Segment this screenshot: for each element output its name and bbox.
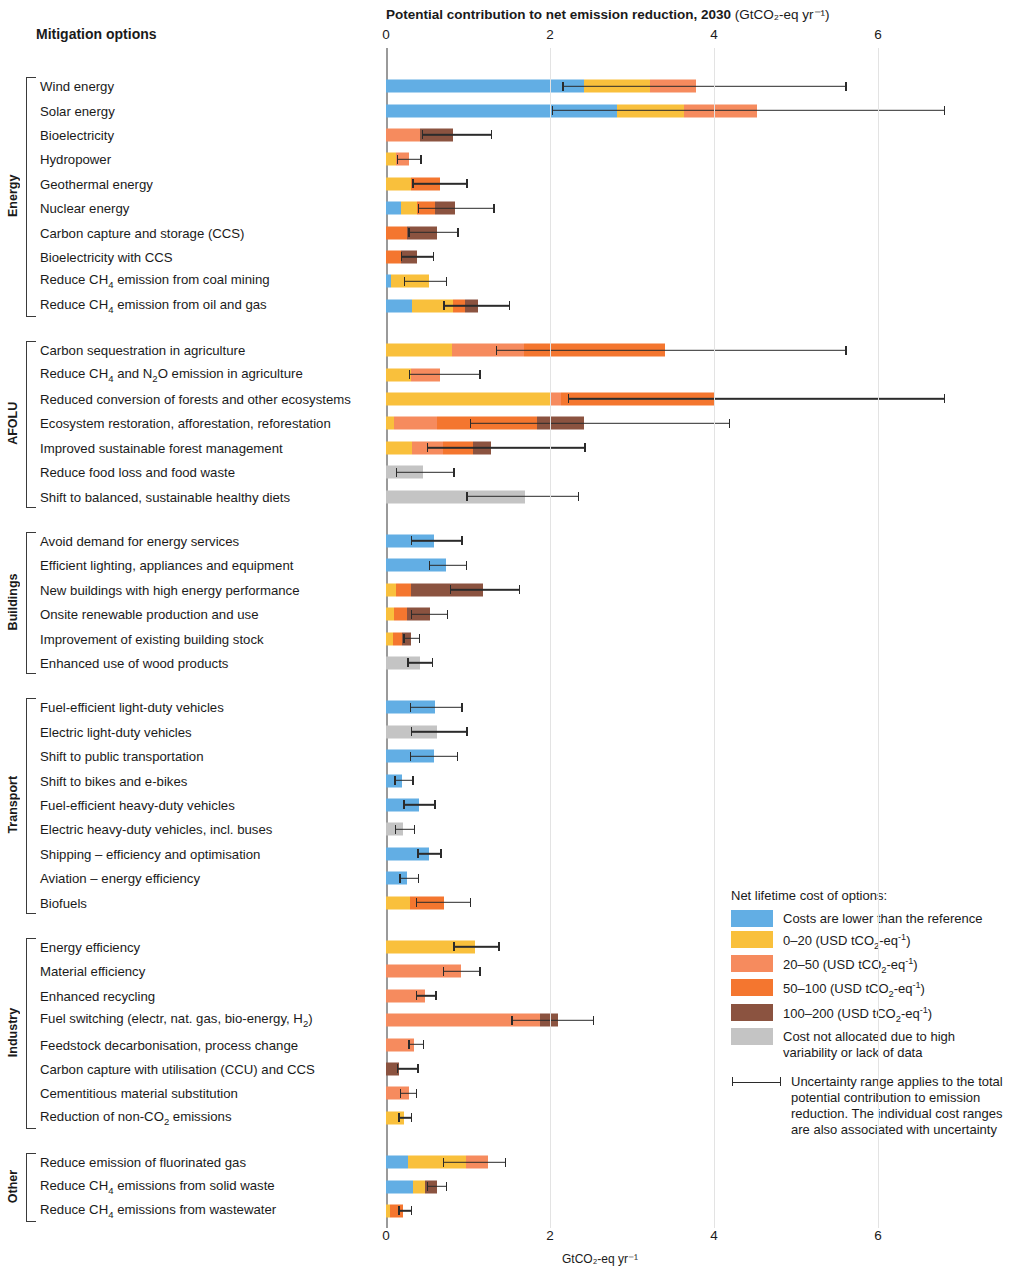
bar-group [386, 872, 1012, 885]
bar-segment [386, 344, 452, 357]
uncertainty-whisker [411, 731, 467, 732]
uncertainty-whisker [470, 423, 729, 424]
legend-items: Costs are lower than the reference0–20 (… [731, 910, 1012, 1060]
uncertainty-cap-high [519, 585, 520, 594]
uncertainty-whisker [418, 207, 493, 208]
uncertainty-cap-high [446, 277, 447, 286]
chart-title-main: Potential contribution to net emission r… [386, 7, 731, 22]
uncertainty-cap-low [397, 155, 398, 164]
bar-segment [386, 368, 411, 381]
row-label: Avoid demand for energy services [40, 533, 239, 548]
uncertainty-whisker [409, 374, 480, 375]
legend-item[interactable]: 20–50 (USD tCO2-eq-1) [731, 955, 1012, 976]
uncertainty-cap-high [491, 130, 492, 139]
row-label: Shift to public transportation [40, 749, 203, 764]
row-label: Electric light-duty vehicles [40, 724, 192, 739]
uncertainty-cap-low [427, 1182, 428, 1191]
chart-row: Electric heavy-duty vehicles, incl. buse… [0, 817, 1012, 841]
legend-swatch [731, 1004, 773, 1021]
uncertainty-whisker [453, 946, 498, 947]
row-label: Fuel switching (electr, nat. gas, bio-en… [40, 1011, 313, 1029]
chart-row: Fuel-efficient light-duty vehicles [0, 695, 1012, 719]
group-label: Industry [6, 938, 20, 1127]
chart-row: Shift to balanced, sustainable healthy d… [0, 484, 1012, 508]
bar-segment [386, 226, 407, 239]
chart-title: Potential contribution to net emission r… [386, 6, 830, 22]
group-label: Other [6, 1153, 20, 1220]
bar-segment [386, 153, 396, 166]
uncertainty-whisker [408, 232, 457, 233]
legend-item[interactable]: 100–200 (USD tCO2-eq-1) [731, 1004, 1012, 1025]
chart-row: Improvement of existing building stock [0, 626, 1012, 650]
bar-segment [386, 583, 396, 596]
row-label: Ecosystem restoration, afforestation, re… [40, 416, 331, 431]
uncertainty-cap-high [944, 106, 945, 115]
uncertainty-cap-low [411, 727, 412, 736]
x-tick-label: 4 [710, 27, 718, 42]
uncertainty-cap-high [944, 394, 945, 403]
legend-item[interactable]: 50–100 (USD tCO2-eq-1) [731, 979, 1012, 1000]
uncertainty-cap-high [435, 991, 436, 1000]
uncertainty-whisker [552, 110, 944, 111]
legend-label: 100–200 (USD tCO2-eq-1) [783, 1004, 932, 1025]
chart-row: Reduce CH4 emission from coal mining [0, 269, 1012, 293]
x-axis-bottom: 0246 [0, 1228, 1012, 1248]
row-label: Improved sustainable forest management [40, 440, 283, 455]
uncertainty-cap-high [411, 1206, 412, 1215]
legend-item[interactable]: Costs are lower than the reference [731, 910, 1012, 927]
row-label: Bioelectricity with CCS [40, 249, 173, 264]
chart-row: Wind energy [0, 74, 1012, 98]
legend-label: 50–100 (USD tCO2-eq-1) [783, 979, 925, 1000]
uncertainty-whisker [411, 613, 447, 614]
chart-row: Improved sustainable forest management [0, 436, 1012, 460]
bar-segment [401, 202, 417, 215]
uncertainty-cap-high [433, 252, 434, 261]
bar-group [386, 344, 1012, 357]
group-bracket [26, 341, 36, 508]
uncertainty-cap-low [398, 1206, 399, 1215]
row-label: Carbon capture with utilisation (CCU) an… [40, 1061, 315, 1076]
chart-row: Reduce CH4 emissions from solid waste [0, 1174, 1012, 1198]
row-label: Shipping – efficiency and optimisation [40, 846, 260, 861]
bar-group [386, 441, 1012, 454]
uncertainty-whisker [398, 1210, 410, 1211]
uncertainty-whisker [443, 1161, 505, 1162]
group-bracket [26, 698, 36, 914]
uncertainty-cap-low [466, 492, 467, 501]
chart-row: Reduce emission of fluorinated gas [0, 1150, 1012, 1174]
bar-group [386, 632, 1012, 645]
legend-title: Net lifetime cost of options: [731, 888, 1012, 903]
bar-group [386, 128, 1012, 141]
x-tick-label: 4 [710, 1228, 718, 1243]
row-label: Shift to bikes and e-bikes [40, 773, 187, 788]
chart-row: Reduced conversion of forests and other … [0, 387, 1012, 411]
row-label: Fuel-efficient light-duty vehicles [40, 700, 224, 715]
row-label: Improvement of existing building stock [40, 631, 264, 646]
chart-row: Electric light-duty vehicles [0, 720, 1012, 744]
uncertainty-whisker [422, 134, 491, 135]
bar-segment [386, 299, 412, 312]
group-label: Buildings [6, 532, 20, 672]
uncertainty-cap-low [397, 1064, 398, 1073]
x-tick-label: 2 [546, 27, 554, 42]
uncertainty-cap-low [403, 800, 404, 809]
bar-group [386, 250, 1012, 263]
uncertainty-cap-high [466, 179, 467, 188]
row-label: Reduced conversion of forests and other … [40, 391, 351, 406]
chart-row: Aviation – energy efficiency [0, 866, 1012, 890]
chart-row: Carbon sequestration in agriculture [0, 338, 1012, 362]
legend-item[interactable]: 0–20 (USD tCO2-eq-1) [731, 931, 1012, 952]
uncertainty-whisker [450, 589, 519, 590]
bar-segment [386, 608, 394, 621]
row-label: Reduce emission of fluorinated gas [40, 1155, 246, 1170]
row-label: Enhanced recycling [40, 988, 155, 1003]
uncertainty-whisker [396, 471, 453, 472]
legend-item[interactable]: Cost not allocated due to high variabili… [731, 1028, 1012, 1060]
bar-group [386, 368, 1012, 381]
uncertainty-cap-low [411, 610, 412, 619]
chart-row: Reduce CH4 and N2O emission in agricultu… [0, 362, 1012, 386]
row-label: Aviation – energy efficiency [40, 871, 200, 886]
legend-label: 20–50 (USD tCO2-eq-1) [783, 955, 918, 976]
bar-segment [386, 80, 584, 93]
uncertainty-cap-low [562, 82, 563, 91]
